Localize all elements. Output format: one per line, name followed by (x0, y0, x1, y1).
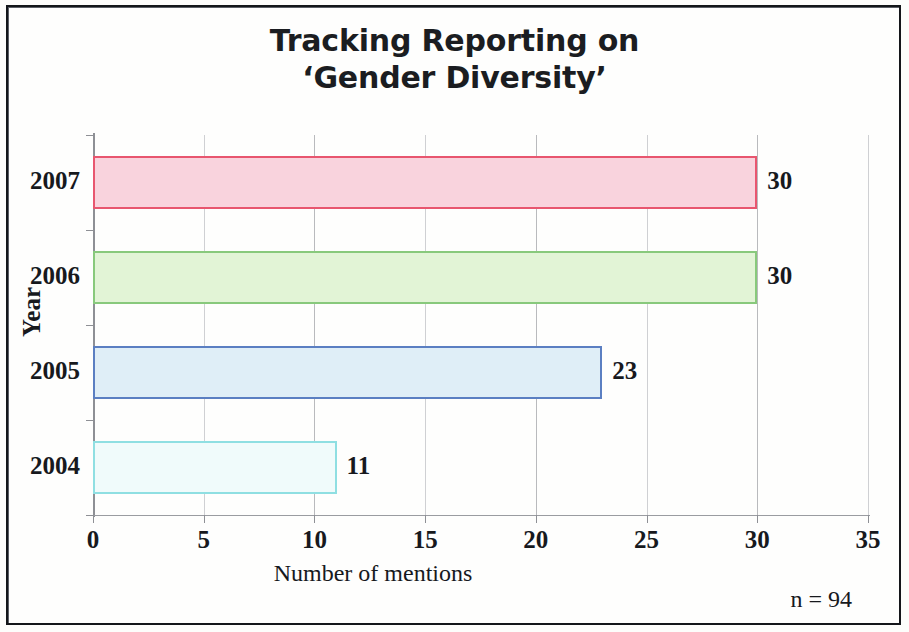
y-axis-tick (86, 135, 94, 136)
x-axis-tick-label: 15 (413, 526, 438, 554)
x-axis-tick (425, 515, 426, 523)
y-axis-category-label-2005: 2005 (30, 357, 80, 385)
bar-2007 (93, 156, 757, 209)
x-axis-tick (536, 515, 537, 523)
y-axis-title: Year (18, 272, 46, 352)
bar-2005 (93, 346, 602, 399)
chart-title: Tracking Reporting on ‘Gender Diversity’ (0, 22, 909, 96)
x-axis-tick-label: 10 (302, 526, 327, 554)
chart-page: Tracking Reporting on ‘Gender Diversity’… (0, 0, 909, 632)
x-axis-title: Number of mentions (93, 560, 653, 587)
y-axis-tick (86, 230, 94, 231)
y-axis-category-label-2004: 2004 (30, 452, 80, 480)
x-axis-tick-label: 35 (856, 526, 881, 554)
y-axis-tick (86, 515, 94, 516)
x-axis-tick (757, 515, 758, 523)
x-axis-tick (647, 515, 648, 523)
bar-2006 (93, 251, 757, 304)
x-axis-line (93, 515, 870, 516)
bar-value-label-2005: 23 (612, 357, 637, 385)
x-axis-tick-label: 5 (197, 526, 210, 554)
bar-2004 (93, 441, 337, 494)
x-axis-tick-label: 0 (87, 526, 100, 554)
plot-area (93, 135, 868, 515)
x-axis-tick-label: 30 (745, 526, 770, 554)
chart-title-line-2: ‘Gender Diversity’ (0, 59, 909, 96)
x-axis-tick (93, 515, 94, 523)
y-axis-tick (86, 420, 94, 421)
x-axis-tick (868, 515, 869, 523)
bar-value-label-2006: 30 (767, 262, 792, 290)
gridline (868, 135, 869, 515)
y-axis-tick (86, 325, 94, 326)
x-axis-tick (204, 515, 205, 523)
x-axis-tick-label: 25 (634, 526, 659, 554)
x-axis-tick (314, 515, 315, 523)
bar-value-label-2007: 30 (767, 167, 792, 195)
gridline (757, 135, 758, 515)
bar-value-label-2004: 11 (347, 452, 371, 480)
chart-title-line-1: Tracking Reporting on (270, 23, 640, 58)
sample-size-annotation: n = 94 (790, 586, 852, 613)
y-axis-category-label-2007: 2007 (30, 167, 80, 195)
x-axis-tick-label: 20 (523, 526, 548, 554)
